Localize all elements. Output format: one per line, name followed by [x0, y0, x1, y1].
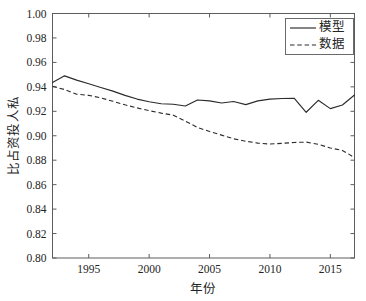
y-tick-label: 0.92	[26, 105, 46, 117]
y-axis-title-char: 人	[7, 109, 21, 122]
legend: 模型 数据	[286, 19, 354, 55]
y-axis-title-char: 资	[7, 136, 21, 149]
x-tick-label: 1995	[77, 263, 100, 275]
y-tick-label: 0.94	[26, 81, 46, 93]
legend-label-data: 数据	[319, 36, 345, 51]
y-tick-label: 0.98	[26, 32, 46, 44]
chart-figure: 0.800.820.840.860.880.900.920.940.960.98…	[0, 0, 366, 301]
x-tick-label: 2005	[198, 263, 221, 275]
y-tick-label: 0.96	[26, 56, 46, 68]
y-tick-label: 0.80	[26, 252, 46, 264]
y-axis-title-char: 投	[6, 123, 21, 136]
y-axis-title-char: 私	[7, 96, 21, 109]
legend-label-model: 模型	[319, 20, 345, 34]
series-line-data	[53, 86, 355, 157]
y-tick-label: 1.00	[26, 8, 46, 20]
y-axis-title-char: 占	[6, 149, 21, 162]
x-tick-label: 2010	[258, 263, 281, 275]
y-axis-title-char: 比	[7, 162, 21, 175]
y-tick-label: 0.90	[26, 130, 46, 142]
y-tick-label: 0.88	[26, 154, 46, 166]
y-tick-label: 0.86	[26, 179, 46, 191]
series-line-model	[53, 76, 355, 112]
x-tick-label: 2000	[138, 263, 161, 275]
y-axis-tick-labels: 0.800.820.840.860.880.900.920.940.960.98…	[26, 8, 46, 265]
line-chart: 0.800.820.840.860.880.900.920.940.960.98…	[0, 0, 366, 301]
x-axis-tick-labels: 19952000200520102015	[77, 263, 342, 275]
x-tick-label: 2015	[319, 263, 342, 275]
x-axis-title: 年份	[190, 282, 216, 296]
y-axis-title: 私人投资占比	[6, 96, 21, 175]
y-tick-label: 0.82	[26, 228, 46, 240]
y-tick-label: 0.84	[26, 203, 46, 215]
